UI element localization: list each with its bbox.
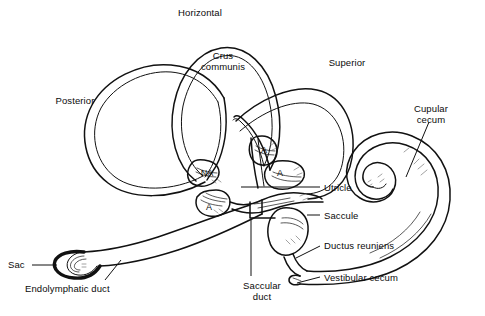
label-superior: Superior [329, 57, 366, 68]
label-horizontal: Horizontal [178, 7, 222, 18]
label-posterior: Posterior [56, 95, 95, 106]
label-endolymphatic-duct: Endolymphatic duct [25, 283, 110, 294]
label-sac: Sac [8, 259, 25, 270]
label-ductus-reuniens: Ductus reuniens [324, 240, 394, 251]
label-cupular-cecum: Cupular cecum [414, 103, 448, 125]
ampulla-mark-horizontal: A [277, 168, 283, 178]
ampulla-mark-posterior: A [206, 202, 212, 212]
label-crus-communis: Crus communis [201, 50, 245, 72]
membranous-labyrinth-diagram: .o { fill:none; stroke:#111111; stroke-w… [0, 0, 485, 316]
ampulla-mark-superior: A [261, 145, 267, 155]
background [0, 0, 485, 316]
label-saccular-duct: Saccular duct [243, 280, 281, 302]
label-vestibular-cecum: Vestibular cecum [324, 272, 398, 283]
label-utricle: Utricle [324, 182, 352, 193]
label-saccule: Saccule [324, 210, 359, 221]
ampulla-mark-na: NA [201, 168, 214, 178]
figure-canvas: .o { fill:none; stroke:#111111; stroke-w… [0, 0, 485, 316]
